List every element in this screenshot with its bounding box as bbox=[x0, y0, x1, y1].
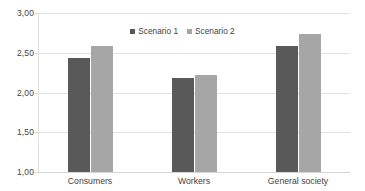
bar-group bbox=[68, 13, 113, 172]
y-axis-tick-label: 1,50 bbox=[4, 127, 34, 137]
bar-2[interactable] bbox=[195, 75, 217, 172]
x-axis-category-label: Workers bbox=[142, 176, 246, 186]
legend-label: Scenario 2 bbox=[195, 26, 235, 36]
bar-group bbox=[276, 13, 321, 172]
legend-swatch-scenario-1-icon bbox=[130, 29, 135, 34]
legend-entry[interactable]: Scenario 1 bbox=[130, 26, 178, 36]
bar-1[interactable] bbox=[68, 58, 90, 172]
y-axis-tick-labels: 3,002,502,001,501,00 bbox=[0, 13, 34, 172]
plot-area bbox=[38, 13, 350, 172]
bar-1[interactable] bbox=[172, 78, 194, 172]
legend-swatch-scenario-2-icon bbox=[187, 29, 192, 34]
y-axis-tick-label: 1,00 bbox=[4, 167, 34, 177]
legend-label: Scenario 1 bbox=[138, 26, 178, 36]
bar-chart-figure: 3,002,502,001,501,00 ConsumersWorkersGen… bbox=[0, 0, 365, 191]
bar-2[interactable] bbox=[299, 34, 321, 172]
y-axis-tick-label: 3,00 bbox=[4, 8, 34, 18]
bar-1[interactable] bbox=[276, 46, 298, 172]
y-axis-tick-label: 2,50 bbox=[4, 48, 34, 58]
bar-group bbox=[172, 13, 217, 172]
x-axis-category-label: General society bbox=[246, 176, 350, 186]
bar-2[interactable] bbox=[91, 46, 113, 172]
x-axis-baseline bbox=[38, 172, 350, 173]
legend-entry[interactable]: Scenario 2 bbox=[187, 26, 235, 36]
x-axis-category-label: Consumers bbox=[38, 176, 142, 186]
y-axis-tick-label: 2,00 bbox=[4, 88, 34, 98]
